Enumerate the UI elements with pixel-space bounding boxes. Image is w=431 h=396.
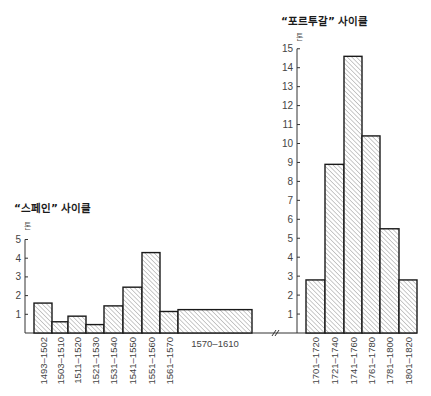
spain-bar bbox=[104, 306, 123, 333]
spain-bar bbox=[52, 322, 68, 333]
spain-bars bbox=[34, 253, 252, 333]
portugal-bars bbox=[306, 56, 417, 333]
spain-x-label: 1561–1570 bbox=[164, 337, 175, 385]
portugal-bar bbox=[399, 280, 417, 333]
portugal-bar bbox=[362, 136, 380, 333]
spain-bar bbox=[34, 303, 52, 333]
portugal-bar bbox=[325, 164, 344, 333]
spain-bar bbox=[178, 310, 252, 333]
portugal-y-tick-label: 7 bbox=[287, 195, 293, 206]
spain-y-tick-label: 2 bbox=[15, 290, 21, 301]
portugal-x-label: 1741–1760 bbox=[348, 337, 359, 385]
portugal-y-tick-label: 12 bbox=[282, 100, 294, 111]
portugal-bar bbox=[380, 229, 399, 333]
spain-y-tick-label: 3 bbox=[15, 271, 21, 282]
portugal-y-tick-label: 8 bbox=[287, 176, 293, 187]
portugal-cycle-chart: “포르투갈” 사이클 톤 123456789101112131415 1701–… bbox=[281, 15, 417, 385]
spain-x-label: 1503–1510 bbox=[55, 337, 66, 385]
spain-x-label: 1511–1520 bbox=[72, 337, 83, 384]
spain-chart-title: “스페인” 사이클 bbox=[14, 202, 91, 214]
spain-y-tick-label: 5 bbox=[15, 234, 21, 245]
portugal-y-tick-label: 2 bbox=[287, 290, 293, 301]
portugal-y-tick-label: 10 bbox=[282, 138, 294, 149]
spain-cycle-chart: “스페인” 사이클 톤 12345 1493–15021503–15101511… bbox=[14, 202, 252, 385]
portugal-y-tick-label: 6 bbox=[287, 214, 293, 225]
spain-x-label: 1531–1540 bbox=[108, 337, 119, 385]
spain-y-unit: 톤 bbox=[24, 222, 31, 231]
spain-x-label: 1551–1560 bbox=[146, 337, 157, 385]
portugal-x-labels: 1701–17201721–17401741–17601761–17801781… bbox=[310, 337, 414, 385]
spain-x-label: 1493–1502 bbox=[38, 337, 49, 385]
portugal-y-tick-label: 15 bbox=[282, 43, 294, 54]
portugal-x-label: 1721–1740 bbox=[329, 337, 340, 385]
portugal-y-tick-label: 14 bbox=[282, 62, 294, 73]
portugal-y-tick-label: 13 bbox=[282, 81, 294, 92]
portugal-y-unit: 톤 bbox=[296, 33, 303, 42]
portugal-x-label: 1801–1820 bbox=[403, 337, 414, 385]
portugal-bar bbox=[306, 280, 325, 333]
portugal-y-tick-label: 4 bbox=[287, 252, 293, 263]
portugal-y-tick-label: 1 bbox=[287, 309, 293, 320]
spain-x-labels: 1493–15021503–15101511–15201521–15301531… bbox=[38, 337, 239, 385]
spain-y-tick-label: 4 bbox=[15, 253, 21, 264]
portugal-y-tick-label: 9 bbox=[287, 157, 293, 168]
spain-bar bbox=[68, 316, 86, 333]
spain-y-tick-label: 1 bbox=[15, 309, 21, 320]
portugal-x-label: 1701–1720 bbox=[310, 337, 321, 385]
axis-break bbox=[252, 330, 297, 336]
chart-canvas: “스페인” 사이클 톤 12345 1493–15021503–15101511… bbox=[0, 0, 431, 396]
spain-x-label: 1570–1610 bbox=[191, 338, 239, 349]
portugal-y-tick-label: 3 bbox=[287, 271, 293, 282]
spain-x-label: 1541–1550 bbox=[127, 337, 138, 385]
portugal-bar bbox=[344, 56, 362, 333]
portugal-chart-title: “포르투갈” 사이클 bbox=[281, 15, 368, 27]
spain-bar bbox=[160, 311, 178, 333]
spain-x-label: 1521–1530 bbox=[90, 337, 101, 385]
portugal-x-label: 1781–1800 bbox=[384, 337, 395, 385]
portugal-y-tick-label: 5 bbox=[287, 233, 293, 244]
spain-bar bbox=[123, 287, 142, 333]
portugal-y-tick-label: 11 bbox=[283, 119, 294, 130]
spain-bar bbox=[86, 325, 104, 333]
portugal-x-label: 1761–1780 bbox=[366, 337, 377, 385]
spain-bar bbox=[142, 253, 160, 333]
